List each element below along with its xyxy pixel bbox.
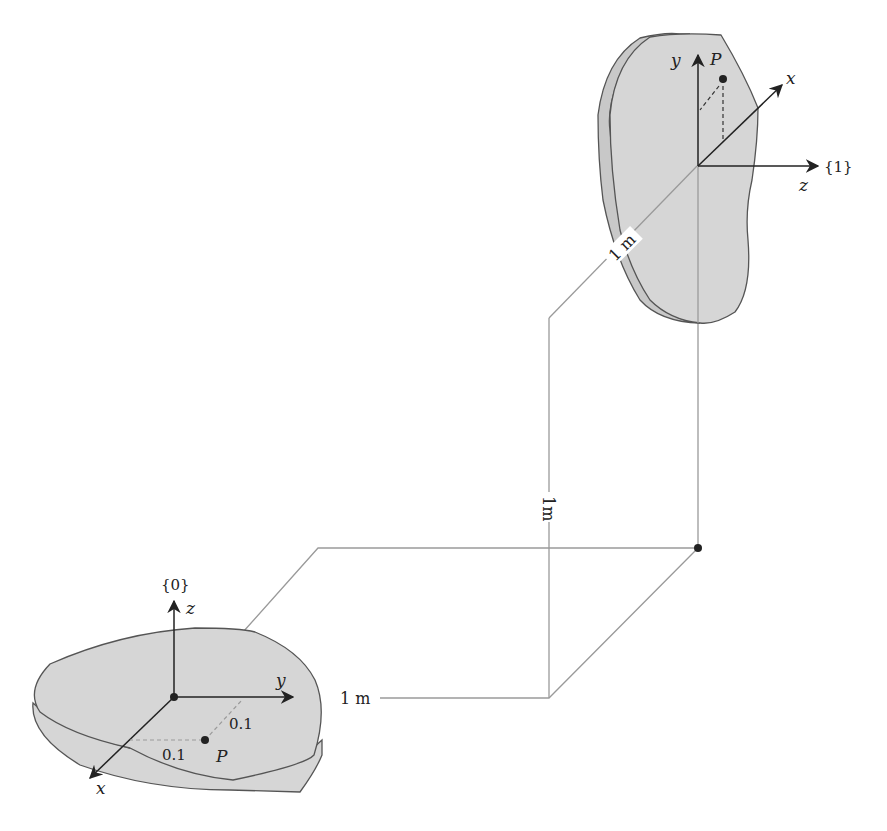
frame0-y-label: y xyxy=(275,670,286,690)
frame0-offset-x-label: 0.1 xyxy=(162,746,186,764)
frame0-point-p xyxy=(201,736,209,744)
guide-bottom-front xyxy=(380,548,698,698)
frame0-origin xyxy=(170,693,178,701)
dimension-horizontal-label: 1 m xyxy=(340,689,370,708)
body-frame1 xyxy=(598,34,758,324)
frame0-x-label: x xyxy=(96,778,106,798)
corner-dot xyxy=(694,544,702,552)
frame1-point-p xyxy=(719,75,727,83)
guide-top-back xyxy=(243,548,698,632)
frame1-z-label: z xyxy=(798,175,809,195)
frame0-z-label: z xyxy=(185,598,196,618)
frame0-label: {0} xyxy=(161,576,190,594)
frame1-label: {1} xyxy=(824,158,853,176)
diagram-canvas: {0} z y x 0.1 0.1 P {1} z y x P 1 m 1m 1… xyxy=(0,0,887,831)
dimension-vertical-label: 1m xyxy=(539,496,558,521)
body-frame0 xyxy=(33,628,322,792)
frame1-x-label: x xyxy=(786,68,796,88)
frame0-point-label: P xyxy=(215,746,228,766)
frame0-offset-y-label: 0.1 xyxy=(229,715,253,733)
frame1-point-label: P xyxy=(709,49,722,69)
frame1-y-label: y xyxy=(670,50,681,70)
